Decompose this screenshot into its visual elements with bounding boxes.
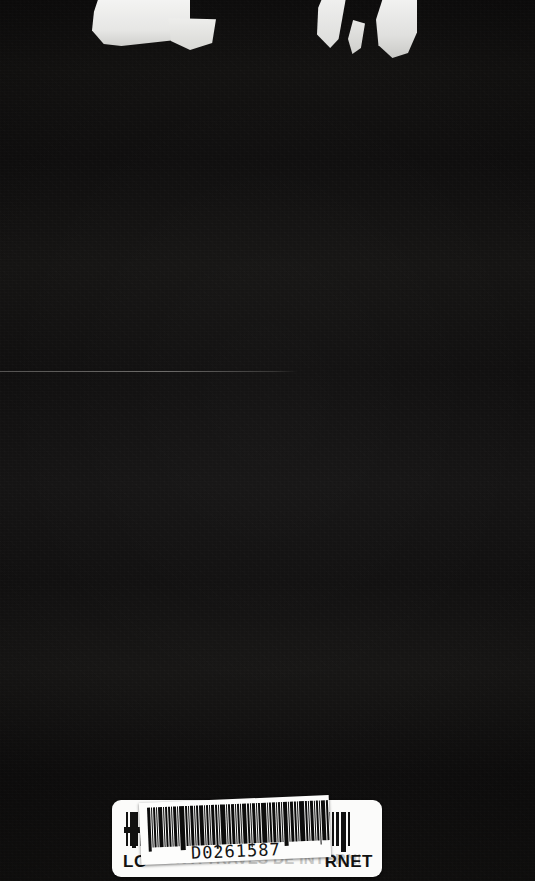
barcode-bar bbox=[348, 812, 350, 846]
cutoff-glyph-3 bbox=[317, 0, 347, 48]
barcode-bar bbox=[341, 812, 346, 852]
book-cover-photo: CION A TRAVES DE INTERNET LO RNET D02615… bbox=[0, 0, 535, 881]
cutoff-glyph-4 bbox=[348, 20, 365, 54]
barcode-bar bbox=[332, 812, 334, 846]
cutoff-glyph-2 bbox=[168, 18, 216, 50]
barcode-bar bbox=[136, 812, 138, 846]
isbn-label-right-text: RNET bbox=[325, 852, 373, 872]
barcode-bar bbox=[336, 812, 339, 846]
barcode-sticker: D0261587 bbox=[139, 795, 331, 865]
cutoff-glyph-5 bbox=[376, 0, 417, 58]
top-cutoff-glyphs bbox=[0, 0, 535, 70]
barcode-bar bbox=[130, 812, 134, 846]
cover-vignette bbox=[0, 0, 535, 881]
faint-hairline-rule bbox=[0, 371, 298, 372]
barcode-sticker-code: D0261587 bbox=[191, 839, 282, 863]
barcode-bar bbox=[126, 812, 128, 846]
